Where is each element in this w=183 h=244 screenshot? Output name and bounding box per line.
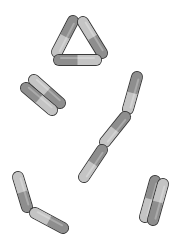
cell-image (0, 0, 183, 244)
rod-cell (59, 55, 101, 65)
